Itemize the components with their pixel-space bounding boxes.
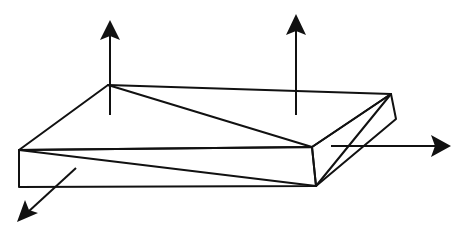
down-left-arrow-icon <box>17 168 76 222</box>
top-face-diagonal <box>108 85 312 147</box>
up-arrow-left-icon <box>100 20 120 115</box>
right-arrow-icon <box>331 135 451 157</box>
top-face <box>19 85 391 150</box>
slab-diagram <box>0 0 468 235</box>
up-arrow-right-icon <box>286 14 306 115</box>
right-face-diagonal <box>316 94 391 186</box>
slab <box>19 85 396 187</box>
